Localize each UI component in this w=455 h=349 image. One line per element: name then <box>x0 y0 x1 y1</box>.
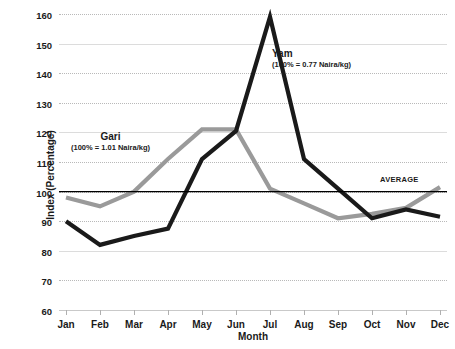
x-tick-label-apr: Apr <box>159 319 176 330</box>
series-annotation-yam: Yam (100% = 0.77 Naira/kg) <box>272 48 351 69</box>
y-tick-label-110: 110 <box>37 158 52 169</box>
y-tick-label-100: 100 <box>36 187 52 198</box>
y-axis-title: Index (Percentage) <box>45 130 56 219</box>
series-label-yam: Yam <box>272 48 351 60</box>
y-tick-label-130: 130 <box>36 98 52 109</box>
y-tick-label-140: 140 <box>36 69 52 80</box>
x-tick-mark-jul <box>270 310 271 315</box>
y-tick-label-60: 60 <box>41 306 52 317</box>
x-tick-mark-feb <box>100 310 101 315</box>
x-tick-mark-dec <box>440 310 441 315</box>
x-tick-label-jan: Jan <box>57 319 74 330</box>
x-tick-mark-aug <box>304 310 305 315</box>
x-tick-mark-apr <box>168 310 169 315</box>
x-axis-title: Month <box>59 331 447 342</box>
y-tick-label-70: 70 <box>41 276 52 287</box>
y-tick-label-90: 90 <box>41 217 52 228</box>
series-sublabel-yam: (100% = 0.77 Naira/kg) <box>272 60 351 70</box>
y-tick-label-120: 120 <box>36 128 52 139</box>
x-tick-mark-sep <box>338 310 339 315</box>
series-lines <box>59 14 447 310</box>
gridline-60: 60 <box>59 310 447 311</box>
x-tick-label-jul: Jul <box>263 319 277 330</box>
x-tick-label-feb: Feb <box>91 319 109 330</box>
x-tick-label-mar: Mar <box>125 319 143 330</box>
x-tick-label-aug: Aug <box>294 319 313 330</box>
x-tick-mark-mar <box>134 310 135 315</box>
x-tick-label-jun: Jun <box>227 319 245 330</box>
x-tick-mark-oct <box>372 310 373 315</box>
average-line-label: AVERAGE <box>380 175 419 184</box>
x-tick-label-sep: Sep <box>329 319 347 330</box>
x-tick-label-oct: Oct <box>364 319 381 330</box>
plot-area: 60708090100110120130140150160 JanFebMarA… <box>59 14 447 310</box>
y-tick-label-160: 160 <box>36 10 52 21</box>
x-tick-mark-may <box>202 310 203 315</box>
series-sublabel-gari: (100% = 1.01 Naira/kg) <box>71 143 150 153</box>
series-annotation-gari: Gari (100% = 1.01 Naira/kg) <box>71 131 150 152</box>
x-tick-mark-jun <box>236 310 237 315</box>
price-index-line-chart: Index (Percentage) 607080901001101201301… <box>0 0 455 349</box>
x-tick-label-may: May <box>192 319 211 330</box>
y-tick-label-80: 80 <box>41 246 52 257</box>
x-tick-mark-nov <box>406 310 407 315</box>
x-tick-mark-jan <box>66 310 67 315</box>
series-label-gari: Gari <box>71 131 150 143</box>
y-tick-label-150: 150 <box>36 39 52 50</box>
x-tick-label-dec: Dec <box>431 319 449 330</box>
x-tick-label-nov: Nov <box>397 319 416 330</box>
